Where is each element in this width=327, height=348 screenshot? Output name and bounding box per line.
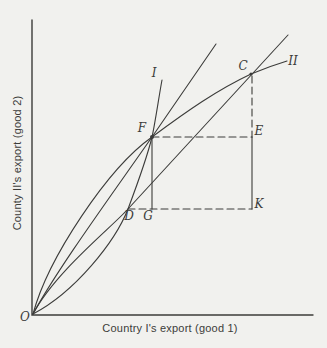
label-G: G <box>143 210 153 222</box>
x-axis-label: Country I's export (good 1) <box>102 322 237 334</box>
label-origin: O <box>20 311 30 323</box>
point-F-dot <box>150 135 154 139</box>
label-E: E <box>255 125 264 137</box>
label-K: K <box>255 198 264 210</box>
label-F: F <box>138 122 146 134</box>
y-axis-label: County II's export (good 2) <box>11 96 23 231</box>
label-C: C <box>238 60 247 72</box>
label-D: D <box>124 210 134 222</box>
label-curve-II: II <box>288 55 297 67</box>
point-C-dot <box>249 72 252 75</box>
figure-background <box>0 0 327 348</box>
diagram-canvas <box>0 0 327 348</box>
label-curve-I: I <box>152 67 157 79</box>
offer-curve-figure: O D G F E C K I II Country I's export (g… <box>0 0 327 348</box>
